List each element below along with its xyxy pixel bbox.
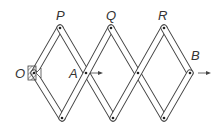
label-q: Q — [106, 8, 116, 23]
arrow-a — [90, 71, 103, 75]
label-a: A — [68, 66, 78, 81]
label-p: P — [56, 8, 65, 23]
label-o: O — [15, 66, 25, 81]
arrow-b — [198, 71, 211, 75]
label-r: R — [158, 8, 167, 23]
linkage-diagram: O P Q R A B — [0, 0, 220, 137]
label-b: B — [191, 48, 200, 63]
linkage-bars — [34, 28, 190, 118]
